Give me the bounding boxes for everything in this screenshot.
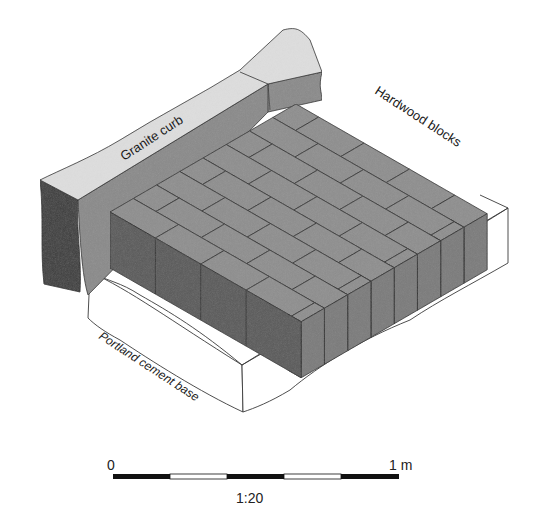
scale-end-label: 1 m bbox=[389, 457, 412, 473]
paving-diagram: Granite curb Hardwood blocks Portland ce… bbox=[0, 0, 540, 530]
scale-bar: 0 1 m 1:20 bbox=[107, 457, 412, 506]
label-hardwood-blocks: Hardwood blocks bbox=[372, 83, 464, 150]
scale-start-label: 0 bbox=[107, 457, 115, 473]
scale-ratio-label: 1:20 bbox=[236, 490, 263, 506]
